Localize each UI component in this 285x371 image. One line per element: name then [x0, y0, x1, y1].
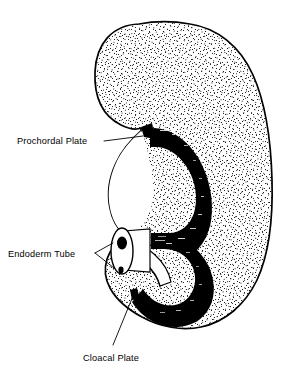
endoderm-tube-cross-section — [111, 228, 150, 274]
tube-lumen-lower — [118, 267, 123, 274]
embryo-diagram: Prochordal Plate Endoderm Tube Cloacal P… — [0, 0, 285, 371]
tube-lumen-upper — [117, 237, 127, 250]
diagram-canvas: Prochordal Plate Endoderm Tube Cloacal P… — [0, 0, 285, 371]
label-prochordal-plate: Prochordal Plate — [17, 136, 87, 146]
label-cloacal-plate: Cloacal Plate — [83, 353, 139, 363]
label-endoderm-tube: Endoderm Tube — [8, 249, 75, 259]
